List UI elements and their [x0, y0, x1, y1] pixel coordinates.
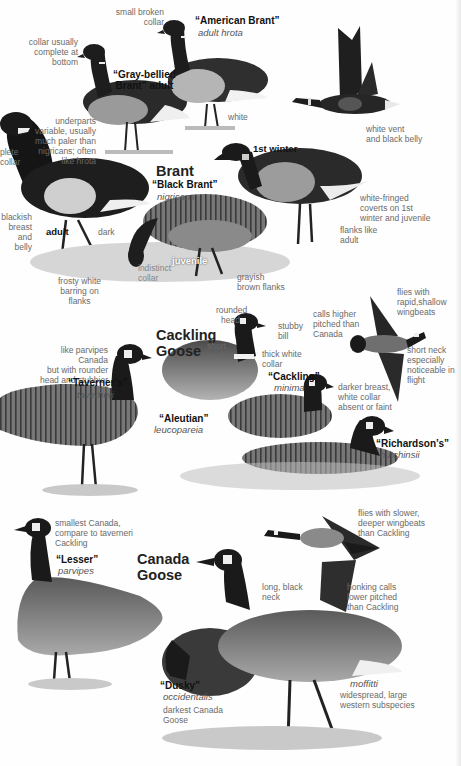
moffitti-sci: moffitti: [350, 678, 378, 689]
label-short-neck-flight: short neck especially noticeable in flig…: [407, 345, 455, 385]
label-dark: dark: [98, 227, 115, 237]
cackling-minima-sci: minima: [274, 382, 305, 393]
aleutian-sci: leucopareia: [154, 424, 203, 435]
label-collar-usually: collar usually complete at bottom: [18, 37, 78, 67]
taverners-name: “Taverner’s”: [68, 377, 128, 388]
label-flies-slower: flies with slower, deeper wingbeats than…: [358, 508, 425, 538]
flying-brant-illustration: [292, 26, 400, 114]
black-brant-name: “Black Brant”: [152, 179, 218, 190]
label-flanks-like-adult: flanks like adult: [340, 225, 377, 245]
field-guide-plate: small broken collar “American Brant” adu…: [0, 0, 461, 766]
american-brant-sci: adult hrota: [198, 27, 243, 38]
label-darkest-canada: darkest Canada Goose: [163, 705, 223, 725]
richardsons-sci: hutchinsii: [380, 449, 420, 460]
label-flies-rapid: flies with rapid,shallow wingbeats: [397, 287, 447, 317]
lesser-sci: parvipes: [58, 565, 94, 576]
cackling-minima-name: “Cackling”: [268, 371, 320, 382]
label-complete-collar: plete collar: [0, 147, 18, 167]
label-honking-calls: honking calls lower pitched than Cacklin…: [347, 582, 399, 612]
label-calls-higher: calls higher pitched than Canada: [313, 309, 359, 339]
page-edge-shadow: [455, 0, 461, 766]
black-brant-sci: nigricans: [157, 191, 195, 202]
label-smallest-canada: smallest Canada, compare to taverneri Ca…: [55, 518, 133, 548]
label-white-fringed: white-fringed coverts on 1st winter and …: [360, 193, 430, 223]
dusky-name: “Dusky”: [160, 680, 200, 691]
age-adult: adult: [46, 226, 69, 237]
canada-ground: [162, 726, 382, 750]
label-rounded-head: rounded head: [216, 305, 240, 325]
label-darker-breast: darker breast, white collar absent or fa…: [338, 382, 392, 412]
label-stubby-bill: stubby bill: [278, 321, 303, 341]
brant-title: Brant: [156, 163, 194, 179]
taverners-sci: taverneri: [77, 389, 114, 400]
american-brant-name: “American Brant”: [195, 15, 279, 26]
richardsons-name: “Richardson’s”: [376, 438, 449, 449]
dusky-sci: occidentalis: [163, 691, 213, 702]
label-frosty-white: frosty white barring on flanks: [58, 276, 101, 306]
label-brown-flanks: grayish brown flanks: [237, 272, 285, 292]
label-short-neck: short neck: [206, 341, 226, 361]
canada-moffitti-illustration: [196, 549, 402, 740]
cackling-grass: [180, 462, 420, 490]
label-thick-white-collar: thick white collar: [262, 349, 302, 369]
gray-bellied-brant-name: “Gray-bellied Brant” adult: [113, 69, 176, 91]
age-first-winter: 1st winter: [253, 143, 297, 154]
aleutian-name: “Aleutian”: [159, 413, 208, 424]
label-white: white: [228, 112, 248, 122]
label-white-vent: white vent and black belly: [366, 124, 422, 144]
label-long-black-neck: long, black neck: [262, 582, 303, 602]
canada-goose-title: Canada Goose: [137, 551, 189, 583]
label-widespread: widespread, large western subspecies: [340, 690, 415, 710]
age-juvenile: juvenile: [172, 255, 207, 266]
label-blackish: blackish breast and belly: [0, 212, 32, 252]
label-small-broken-collar: small broken collar: [104, 7, 164, 27]
label-juvenile-collar: indistinct collar: [138, 263, 171, 283]
lesser-name: “Lesser”: [56, 554, 98, 565]
label-underparts: underparts variable, usually much paler …: [28, 116, 96, 166]
